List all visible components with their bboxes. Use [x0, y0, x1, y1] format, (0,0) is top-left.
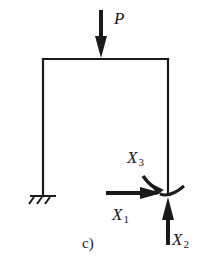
frame-drawing [0, 0, 205, 269]
portal-frame-diagram: P X3 X1 X2 c) [0, 0, 205, 269]
x2-symbol: X [172, 230, 182, 249]
load-arrow-p-icon [95, 10, 107, 58]
redundant-label-x1: X1 [112, 206, 129, 225]
x3-symbol: X [127, 148, 137, 167]
frame-members [43, 59, 168, 196]
load-symbol: P [114, 9, 124, 28]
redundant-label-x2: X2 [172, 231, 189, 250]
x1-symbol: X [112, 205, 122, 224]
load-label-p: P [114, 10, 124, 27]
x3-subscript: 3 [138, 156, 144, 168]
figure-caption: c) [82, 236, 94, 251]
redundant-label-x3: X3 [127, 149, 144, 168]
x1-subscript: 1 [123, 213, 129, 225]
x2-subscript: 2 [183, 238, 189, 250]
fixed-support-icon [29, 196, 56, 204]
